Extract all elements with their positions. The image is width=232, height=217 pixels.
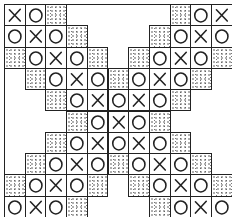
cross-icon [212, 5, 232, 25]
circle-cell [149, 174, 171, 196]
cross-icon [67, 69, 87, 89]
stippled-cell [87, 47, 109, 69]
stippled-cell [45, 132, 67, 154]
circle-cell [45, 153, 67, 175]
cross-cell [128, 132, 150, 154]
circle-cell [211, 25, 232, 47]
stippled-cell [170, 132, 192, 154]
cross-cell [170, 174, 192, 196]
circle-icon [67, 133, 87, 153]
cross-icon [46, 48, 66, 68]
circle-cell [170, 25, 192, 47]
circle-icon [191, 48, 211, 68]
circle-icon [67, 175, 87, 195]
stippled-cell [149, 25, 171, 47]
circle-icon [46, 154, 66, 174]
circle-cell [66, 89, 88, 111]
circle-icon [171, 69, 191, 89]
cross-icon [150, 69, 170, 89]
circle-cell [45, 196, 67, 217]
cross-cell [25, 196, 47, 217]
circle-icon [212, 197, 232, 217]
circle-icon [26, 175, 46, 195]
circle-cell [25, 174, 47, 196]
cross-icon [171, 175, 191, 195]
cross-cell [66, 68, 88, 90]
circle-icon [129, 112, 149, 132]
stippled-cell [211, 174, 232, 196]
stippled-cell [170, 4, 192, 26]
circle-icon [171, 154, 191, 174]
stippled-cell [190, 68, 212, 90]
circle-cell [190, 47, 212, 69]
circle-icon [109, 90, 129, 110]
circle-icon [46, 26, 66, 46]
stippled-cell [108, 68, 130, 90]
circle-icon [5, 197, 25, 217]
stippled-cell [66, 111, 88, 133]
circle-cell [170, 196, 192, 217]
circle-cell [87, 153, 109, 175]
stippled-cell [45, 4, 67, 26]
stippled-cell [190, 153, 212, 175]
cross-cell [108, 111, 130, 133]
cross-icon [67, 154, 87, 174]
circle-icon [26, 48, 46, 68]
circle-icon [191, 175, 211, 195]
cross-cell [190, 196, 212, 217]
cross-cell [211, 4, 232, 26]
circle-icon [150, 90, 170, 110]
stippled-cell [87, 174, 109, 196]
stippled-cell [4, 174, 26, 196]
stippled-cell [45, 89, 67, 111]
stippled-cell [4, 47, 26, 69]
cross-icon [5, 5, 25, 25]
circle-cell [87, 111, 109, 133]
circle-icon [26, 5, 46, 25]
cross-cell [170, 47, 192, 69]
circle-cell [128, 153, 150, 175]
circle-icon [46, 69, 66, 89]
stippled-cell [128, 174, 150, 196]
tic-tac-toe-board [0, 0, 232, 217]
circle-cell [149, 89, 171, 111]
cross-cell [25, 25, 47, 47]
circle-cell [128, 111, 150, 133]
cross-icon [150, 154, 170, 174]
circle-cell [45, 25, 67, 47]
cross-icon [109, 112, 129, 132]
cross-cell [4, 4, 26, 26]
circle-cell [211, 196, 232, 217]
cross-icon [129, 90, 149, 110]
circle-icon [67, 48, 87, 68]
cross-cell [149, 153, 171, 175]
stippled-cell [25, 153, 47, 175]
cross-cell [45, 174, 67, 196]
circle-icon [129, 154, 149, 174]
circle-cell [4, 25, 26, 47]
circle-icon [171, 197, 191, 217]
stippled-cell [108, 153, 130, 175]
cross-icon [191, 197, 211, 217]
circle-cell [149, 47, 171, 69]
circle-icon [88, 154, 108, 174]
cross-icon [88, 90, 108, 110]
stippled-cell [149, 196, 171, 217]
circle-cell [4, 196, 26, 217]
cross-icon [26, 197, 46, 217]
circle-cell [25, 4, 47, 26]
circle-cell [87, 68, 109, 90]
circle-cell [45, 68, 67, 90]
cross-icon [26, 26, 46, 46]
circle-icon [129, 69, 149, 89]
circle-icon [171, 26, 191, 46]
stippled-cell [149, 111, 171, 133]
circle-cell [108, 132, 130, 154]
cross-cell [66, 153, 88, 175]
cross-icon [129, 133, 149, 153]
circle-icon [150, 48, 170, 68]
circle-cell [149, 132, 171, 154]
circle-icon [88, 69, 108, 89]
circle-icon [88, 112, 108, 132]
cross-icon [171, 48, 191, 68]
